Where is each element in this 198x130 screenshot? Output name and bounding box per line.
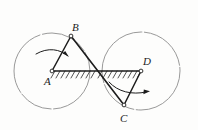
- joint-D: [139, 69, 143, 73]
- link-AB: [52, 36, 71, 71]
- joint-A: [50, 69, 54, 73]
- point-label-C: C: [120, 113, 127, 124]
- left-arrow-head: [63, 51, 69, 57]
- point-label-A: A: [44, 76, 51, 87]
- link-CD: [124, 71, 141, 105]
- point-label-D: D: [143, 56, 151, 67]
- figure-canvas: [0, 0, 198, 130]
- point-label-B: B: [72, 22, 79, 33]
- linkage-figure: A B C D: [0, 0, 198, 130]
- joint-C: [122, 103, 126, 107]
- right-ground-hatch: [98, 71, 141, 78]
- left-ground-hatch: [51, 71, 95, 78]
- right-arrow-head: [143, 89, 150, 94]
- joint-B: [69, 34, 73, 38]
- ground-hatching-group: [51, 71, 141, 78]
